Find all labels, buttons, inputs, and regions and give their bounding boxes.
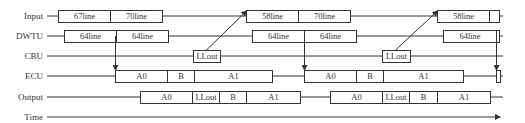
row-label-cbu: CBU — [24, 51, 43, 61]
row-label-ecu: ECU — [25, 71, 44, 81]
dwtu-segment: 64line — [117, 31, 169, 43]
segment-label: B — [230, 92, 236, 102]
output-segment: LLout — [383, 92, 410, 104]
segment-label: 64line — [459, 31, 480, 41]
segment-label: LLout — [196, 51, 218, 61]
segment-label: A1 — [418, 71, 428, 81]
arrow-icon — [206, 11, 247, 51]
timing-diagram: 67line70line58line70line58line64line64li… — [0, 0, 525, 123]
output-segment: A1 — [247, 92, 301, 104]
row-label-dwtu: DWTU — [16, 31, 43, 41]
output-segment: B — [410, 92, 438, 104]
row-labels: InputDWTUCBUECUOutputTime — [16, 11, 44, 122]
segment-label: 64line — [80, 31, 101, 41]
segment-label: 58line — [262, 11, 283, 21]
output-segment: A1 — [438, 92, 491, 104]
segment-label: A0 — [351, 92, 361, 102]
segment-label: B — [178, 71, 184, 81]
arrow-icon — [395, 11, 438, 51]
segment-label: LLout — [386, 51, 408, 61]
segment-label: 64line — [132, 31, 153, 41]
segment-label: LLout — [195, 92, 217, 102]
segment-label: A1 — [459, 92, 469, 102]
segment-label: A0 — [161, 92, 171, 102]
segment-label: A1 — [268, 92, 278, 102]
dwtu-segment: 64line — [305, 31, 357, 43]
input-segment: 70line — [111, 11, 163, 23]
ecu-segment — [497, 71, 501, 83]
input-segment: 67line — [59, 11, 111, 23]
input-segment: 58line — [438, 11, 490, 23]
dwtu-segment: 64line — [253, 31, 305, 43]
segment-label: B — [421, 92, 427, 102]
segment-label: 70line — [126, 11, 147, 21]
output-segment: B — [220, 92, 247, 104]
segment-label: B — [367, 71, 373, 81]
ecu-segment: B — [168, 71, 195, 83]
segment-label: 67line — [74, 11, 95, 21]
output-segment: A0 — [331, 92, 383, 104]
ecu-segment: A0 — [305, 71, 357, 83]
signal-boxes: 67line70line58line70line58line64line64li… — [59, 11, 501, 104]
cbu-segment: LLout — [194, 51, 221, 63]
dwtu-segment: 64line — [444, 31, 497, 43]
row-label-input: Input — [24, 11, 43, 21]
output-segment: A0 — [141, 92, 193, 104]
row-label-time: Time — [24, 112, 43, 122]
input-segment: 70line — [299, 11, 351, 23]
ecu-segment: B — [357, 71, 384, 83]
segment-label: A0 — [136, 71, 146, 81]
segment-label: 58line — [453, 11, 474, 21]
input-segment: 58line — [247, 11, 299, 23]
segment-label: A0 — [325, 71, 335, 81]
segment-label: 70line — [314, 11, 335, 21]
row-label-output: Output — [18, 92, 44, 102]
output-segment: LLout — [193, 92, 220, 104]
segment-label: LLout — [385, 92, 407, 102]
segment-label: 64line — [268, 31, 289, 41]
segment-label: A1 — [228, 71, 238, 81]
ecu-segment: A0 — [116, 71, 168, 83]
segment-label: 64line — [320, 31, 341, 41]
ecu-segment: A1 — [195, 71, 273, 83]
ecu-segment: A1 — [384, 71, 464, 83]
dwtu-segment: 64line — [65, 31, 117, 43]
input-segment — [490, 11, 500, 23]
cbu-segment: LLout — [383, 51, 411, 63]
